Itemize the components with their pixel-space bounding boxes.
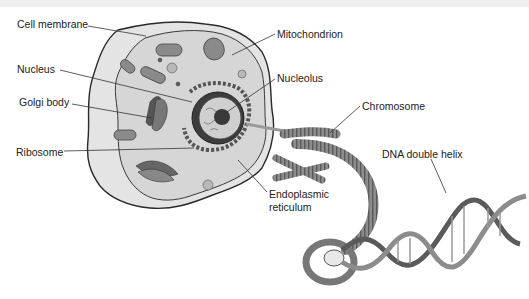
label-endoplasmic-reticulum-1: Endoplasmic (269, 188, 329, 200)
label-nucleolus: Nucleolus (277, 72, 323, 84)
label-cell-membrane: Cell membrane (17, 18, 88, 30)
label-nucleus: Nucleus (17, 63, 55, 75)
label-dna-double-helix: DNA double helix (382, 148, 463, 160)
label-golgi-body: Golgi body (19, 96, 69, 108)
label-endoplasmic-reticulum-2: reticulum (269, 201, 312, 213)
label-mitochondrion: Mitochondrion (277, 28, 343, 40)
label-ribosome: Ribosome (16, 146, 63, 158)
label-chromosome: Chromosome (362, 100, 425, 112)
